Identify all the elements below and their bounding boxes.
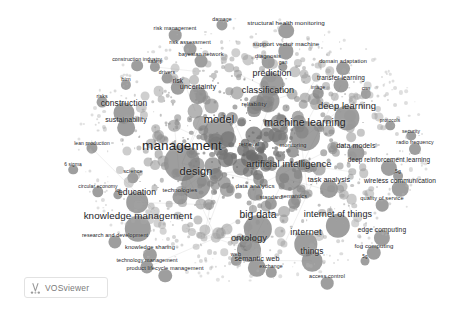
vosviewer-watermark[interactable]: VOSviewer (24, 277, 108, 298)
term-label[interactable]: machine learning (264, 117, 346, 128)
term-label[interactable]: uncertainty (180, 83, 216, 90)
term-label[interactable]: structural health monitoring (247, 20, 324, 26)
term-label[interactable]: model (204, 114, 234, 125)
term-label[interactable]: classification (242, 86, 294, 95)
term-label[interactable]: knowledge sharing (125, 245, 175, 251)
term-label[interactable]: deep reinforcement learning (348, 157, 430, 163)
term-label[interactable]: things (301, 247, 324, 255)
term-label[interactable]: fog computing (355, 243, 394, 249)
term-label[interactable]: lean production (74, 141, 110, 146)
term-label[interactable]: design (179, 166, 212, 177)
term-label[interactable]: internet (290, 228, 321, 237)
term-label[interactable]: image (311, 85, 326, 90)
term-label[interactable]: monitoring (279, 143, 306, 149)
term-label[interactable]: domain adaptation (319, 59, 367, 65)
term-label[interactable]: exchange (259, 264, 282, 269)
term-label[interactable]: bim (121, 77, 130, 83)
term-label[interactable]: support vector machine (253, 41, 320, 47)
term-label[interactable]: technology management (116, 258, 177, 263)
term-label[interactable]: transfer learning (317, 75, 365, 81)
term-label[interactable]: 6 sigma (64, 163, 82, 168)
term-label[interactable]: protocols (380, 119, 400, 124)
network-labels[interactable]: managementmodelmachine learningdesignbig… (0, 0, 468, 318)
term-label[interactable]: drivers (159, 70, 175, 75)
term-label[interactable]: iot (115, 188, 121, 193)
term-label[interactable]: construction (101, 99, 147, 107)
term-label[interactable]: risk management (154, 26, 197, 31)
term-label[interactable]: circular economy (78, 184, 117, 189)
term-label[interactable]: prediction (252, 69, 291, 78)
term-label[interactable]: 5g (395, 169, 401, 174)
term-label[interactable]: artificial intelligence (246, 159, 332, 169)
term-label[interactable]: product lifecycle management (126, 266, 203, 272)
vosviewer-logo-icon (30, 282, 41, 294)
term-label[interactable]: internet of things (304, 210, 372, 219)
term-label[interactable]: big data (239, 210, 276, 220)
term-label[interactable]: data models (336, 142, 375, 149)
term-label[interactable]: damage (212, 17, 231, 22)
term-label[interactable]: access control (309, 274, 345, 279)
term-label[interactable]: radio frequency (396, 140, 433, 145)
term-label[interactable]: security (402, 129, 420, 134)
vosviewer-term-map[interactable]: managementmodelmachine learningdesignbig… (0, 0, 468, 318)
term-label[interactable]: task analysis (308, 176, 350, 183)
term-label[interactable]: diagnosis (255, 53, 281, 59)
term-label[interactable]: technologies (163, 187, 198, 193)
term-label[interactable]: risks (96, 94, 107, 99)
term-label[interactable]: 5g (362, 255, 367, 260)
term-label[interactable]: wireless communication (364, 178, 436, 185)
term-label[interactable]: research and development (82, 233, 148, 238)
term-label[interactable]: bayesian network (178, 52, 223, 58)
term-label[interactable]: sustainability (105, 116, 146, 123)
term-label[interactable]: management (142, 139, 222, 153)
term-label[interactable]: science (123, 169, 143, 175)
term-label[interactable]: cnn (362, 86, 371, 91)
term-label[interactable]: platform (235, 236, 256, 242)
term-label[interactable]: edge computing (358, 227, 406, 234)
term-label[interactable]: risk (173, 78, 183, 84)
term-label[interactable]: data analytics (235, 183, 274, 189)
term-label[interactable]: reliability (241, 101, 266, 107)
term-label[interactable]: risk assessment (169, 40, 211, 46)
term-label[interactable]: web (231, 252, 242, 258)
term-label[interactable]: retrieval (239, 142, 259, 147)
term-label[interactable]: quality of service (360, 196, 403, 202)
term-label[interactable]: safety (148, 59, 162, 64)
term-label[interactable]: semantics (281, 194, 307, 200)
term-label[interactable]: education (118, 188, 156, 197)
term-label[interactable]: standard (260, 195, 283, 201)
term-label[interactable]: knowledge management (84, 211, 193, 221)
term-label[interactable]: gan (279, 60, 288, 65)
term-label[interactable]: deep learning (318, 101, 376, 110)
vosviewer-watermark-label: VOSviewer (45, 283, 89, 293)
